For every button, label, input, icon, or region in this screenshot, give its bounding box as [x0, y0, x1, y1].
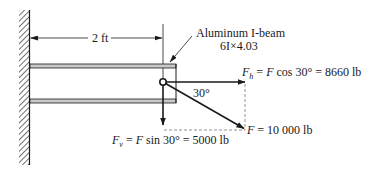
horizontal-force-label: Fh = F cos 30° = 8660 lb — [242, 66, 361, 78]
fh-equals: = — [253, 65, 266, 79]
vertical-force-label: Fv = F sin 30° = 5000 lb — [112, 134, 229, 146]
dimension-label: 2 ft — [89, 32, 111, 44]
fh-subscript: h — [249, 72, 253, 81]
fv-equals: = — [123, 133, 136, 147]
fixed-wall — [19, 10, 30, 165]
angle-label: 30° — [193, 87, 210, 99]
load-point-icon — [160, 79, 166, 85]
fh-expr-value: cos 30° = 8660 lb — [273, 65, 361, 79]
i-beam — [30, 64, 176, 103]
beam-leader-line — [170, 36, 192, 62]
f-value: = 10 000 lb — [254, 123, 312, 137]
fv-expr-var: F — [136, 133, 143, 147]
fv-subscript: v — [119, 140, 123, 149]
beam-designation-label: 6I×4.03 — [220, 40, 258, 52]
fv-expr-value: sin 30° = 5000 lb — [143, 133, 229, 147]
resultant-force-label: F = 10 000 lb — [247, 124, 312, 136]
beam-name-label: Aluminum I-beam — [196, 27, 285, 39]
